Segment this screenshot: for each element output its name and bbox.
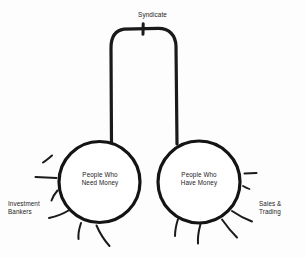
ray-icon: [175, 219, 178, 236]
diagram-canvas: Syndicate People Who Need Money People W…: [0, 0, 305, 258]
ray-icon: [43, 156, 52, 163]
diagram-svg: [0, 0, 305, 258]
ray-icon: [198, 224, 201, 244]
right-circle-label: People Who Have Money: [158, 171, 240, 187]
ray-icon: [232, 211, 252, 222]
ray-icon: [222, 220, 237, 238]
left-circle-label: People Who Need Money: [59, 171, 141, 187]
syndicate-connector-group: [111, 24, 177, 146]
ray-icon: [52, 191, 58, 201]
sales-trading-label: Sales & Trading: [259, 200, 305, 216]
syndicate-connector-arch: [111, 28, 177, 146]
ray-icon: [36, 177, 57, 178]
ray-icon: [245, 173, 257, 174]
syndicate-label: Syndicate: [0, 11, 305, 19]
ray-icon: [97, 226, 110, 247]
ray-icon: [243, 186, 250, 189]
investment-bankers-label: Investment Bankers: [8, 200, 66, 216]
ray-icon: [78, 223, 81, 239]
